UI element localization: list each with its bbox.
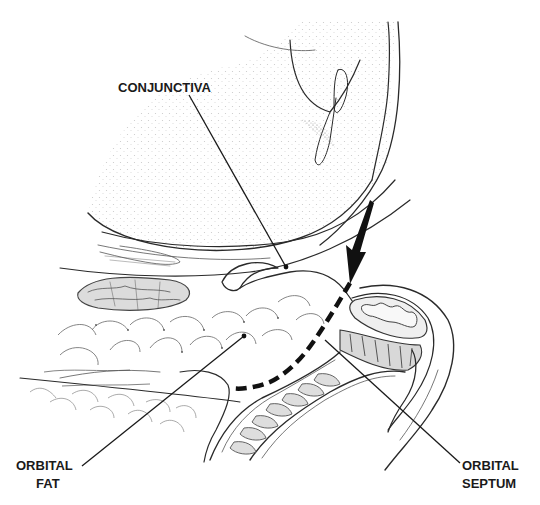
- label-orbital-fat-line2: FAT: [36, 476, 60, 491]
- eyelid-anatomy-diagram: CONJUNCTIVA ORBITAL FAT ORBITAL SEPTUM: [0, 0, 540, 505]
- label-orbital-fat-line1: ORBITAL: [16, 458, 73, 473]
- orbital-fat-lobules: [20, 296, 324, 402]
- label-orbital-fat: ORBITAL FAT: [16, 458, 73, 491]
- label-orbital-septum: ORBITAL SEPTUM: [462, 458, 519, 491]
- muscle-belly: [78, 277, 190, 310]
- label-conjunctiva-text: CONJUNCTIVA: [118, 80, 212, 95]
- label-orbital-septum-line2: SEPTUM: [462, 476, 516, 491]
- conjunctival-fornix: [222, 263, 355, 305]
- globe: [88, 22, 400, 250]
- label-conjunctiva: CONJUNCTIVA: [118, 80, 212, 95]
- label-orbital-septum-line1: ORBITAL: [462, 458, 519, 473]
